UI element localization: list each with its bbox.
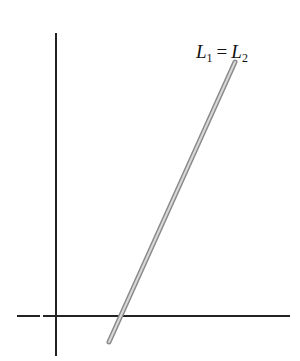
- label-left-var: L: [196, 41, 207, 62]
- label-left-sub: 1: [207, 51, 213, 65]
- line-label: L1=L2: [196, 41, 248, 66]
- diagram-canvas: [0, 0, 300, 361]
- line-l1-equals-l2: [109, 62, 235, 342]
- label-right-var: L: [231, 41, 242, 62]
- label-right-sub: 2: [242, 51, 248, 65]
- label-operator: =: [217, 41, 228, 62]
